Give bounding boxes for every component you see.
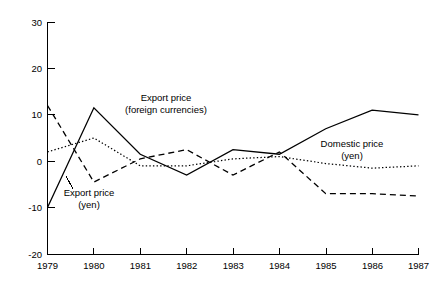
- x-tick-label: 1979: [37, 260, 58, 271]
- x-tick-label: 1985: [316, 260, 337, 271]
- y-tick-label: 10: [31, 109, 42, 120]
- x-tick-label: 1983: [223, 260, 244, 271]
- x-tick-label: 1984: [269, 260, 290, 271]
- annotation-export-yen-line2: (yen): [78, 199, 100, 210]
- line-chart: 30 20 10 0 -10 -20 1979 1980 1981 1982 1…: [0, 0, 430, 288]
- annotation-domestic-yen-line1: Domestic price: [321, 138, 384, 149]
- annotation-export-foreign-line1: Export price: [141, 92, 192, 103]
- y-tick-label: 30: [31, 17, 42, 28]
- annotation-domestic-yen-line2: (yen): [341, 150, 363, 161]
- chart-container: 30 20 10 0 -10 -20 1979 1980 1981 1982 1…: [0, 0, 430, 288]
- y-tick-label: 20: [31, 63, 42, 74]
- x-tick-label: 1980: [83, 260, 104, 271]
- x-tick-label: 1982: [176, 260, 197, 271]
- y-tick-label: -20: [28, 249, 42, 260]
- x-tick-label: 1986: [362, 260, 383, 271]
- x-tick-label: 1987: [408, 260, 429, 271]
- annotation-export-foreign-line2: (foreign currencies): [125, 104, 207, 115]
- annotation-export-yen-line1: Export price: [64, 187, 115, 198]
- x-tick-label: 1981: [130, 260, 151, 271]
- y-tick-label: -10: [28, 202, 42, 213]
- y-tick-label: 0: [37, 156, 42, 167]
- x-axis-tick-labels: 1979 1980 1981 1982 1983 1984 1985 1986 …: [37, 260, 429, 271]
